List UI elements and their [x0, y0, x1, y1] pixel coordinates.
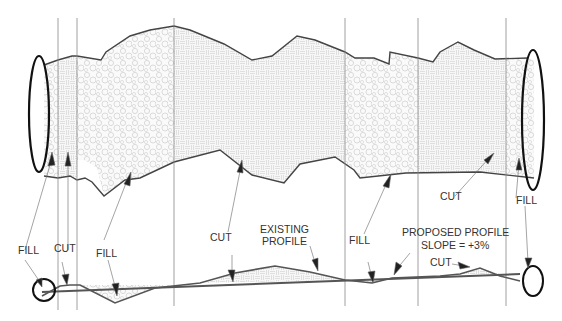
label-cut-1: CUT: [54, 242, 76, 254]
label-existing-1: EXISTING: [260, 223, 309, 235]
labels: FILL CUT FILL CUT EXISTING PROFILE FILL …: [18, 190, 537, 268]
label-fill-4: FILL: [516, 194, 537, 206]
zone-fill-right: [506, 58, 534, 178]
label-fill-3: FILL: [349, 234, 370, 246]
label-cut-4: CUT: [430, 256, 452, 268]
label-existing-2: PROFILE: [262, 235, 307, 247]
zone-fill-2: [77, 26, 174, 196]
label-proposed-2: SLOPE = +3%: [421, 239, 489, 251]
label-proposed-1: PROPOSED PROFILE: [402, 226, 509, 238]
label-fill-2: FILL: [96, 247, 117, 259]
profile-view: [33, 266, 543, 303]
label-cut-2: CUT: [210, 231, 232, 243]
zone-fill-3: [345, 52, 418, 178]
circle-right: [523, 266, 543, 296]
label-cut-3: CUT: [440, 190, 462, 202]
label-fill-1: FILL: [18, 244, 39, 256]
plan-view: [44, 26, 534, 196]
cut-fill-diagram: FILL CUT FILL CUT EXISTING PROFILE FILL …: [0, 0, 562, 321]
